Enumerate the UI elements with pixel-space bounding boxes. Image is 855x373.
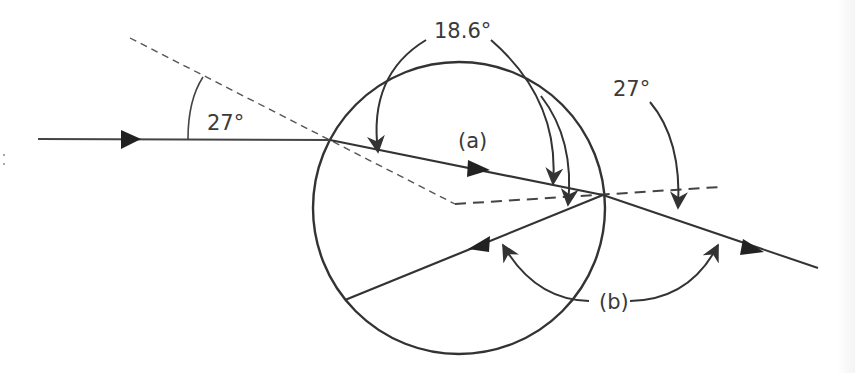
page-edge-shadow — [837, 0, 855, 373]
refracted-angle-pointer-right-2 — [541, 96, 569, 205]
ray-b-pointer-left — [503, 245, 589, 301]
refracted-angle-pointer-left — [377, 40, 426, 152]
refracted-angle-label: 18.6° — [434, 19, 491, 43]
ray-a-label: (a) — [458, 129, 487, 153]
refracted-angle-pointer-right-1 — [491, 40, 554, 184]
scan-mark — [3, 154, 5, 156]
droplet-circle — [313, 62, 605, 354]
incident-ray — [38, 139, 330, 140]
scan-mark — [3, 163, 5, 165]
entry-normal-dashed — [130, 38, 455, 204]
incident-angle-arc — [188, 77, 203, 139]
droplet-refraction-diagram: 27° 18.6° 27° (a) (b) — [0, 0, 855, 373]
ray-b-pointer-right — [630, 245, 718, 301]
ray-b-label: (b) — [599, 290, 629, 314]
emergent-ray-arrowhead — [740, 239, 764, 255]
incident-ray-arrowhead — [121, 130, 141, 149]
ray-a-arrowhead — [467, 160, 490, 177]
incident-angle-label: 27° — [207, 111, 244, 135]
exit-angle-label: 27° — [613, 77, 650, 101]
